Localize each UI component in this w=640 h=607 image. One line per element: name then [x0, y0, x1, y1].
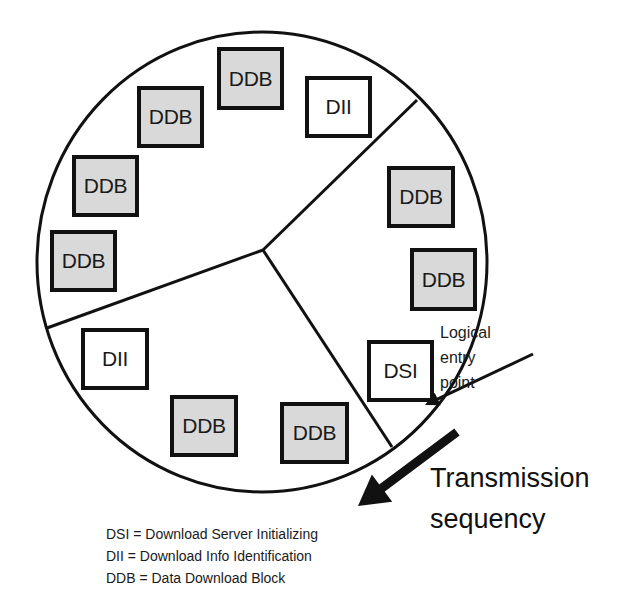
block-label: DSI — [383, 359, 417, 383]
block-ddb: DDB — [280, 402, 349, 464]
legend: DSI = Download Server Initializing DII =… — [106, 523, 318, 589]
block-ddb: DDB — [387, 166, 455, 228]
block-label: DDB — [293, 421, 336, 445]
block-dii: DII — [305, 76, 372, 138]
legend-item-ddb: DDB = Data Download Block — [106, 567, 318, 589]
legend-item-dsi: DSI = Download Server Initializing — [106, 523, 318, 545]
block-ddb: DDB — [50, 230, 117, 292]
block-label: DDB — [229, 67, 272, 91]
block-ddb: DDB — [72, 155, 139, 217]
transmission-sequence-label: Transmission sequency — [430, 458, 590, 540]
entry-label-line-2: entry — [440, 345, 491, 370]
block-label: DDB — [84, 174, 127, 198]
block-label: DII — [326, 95, 352, 119]
block-label: DDB — [422, 268, 465, 292]
block-label: DII — [102, 347, 128, 371]
block-label: DDB — [149, 105, 192, 129]
block-label: DDB — [182, 414, 225, 438]
block-label: DDB — [399, 185, 442, 209]
block-dii: DII — [81, 328, 149, 390]
entry-label-line-1: Logical — [440, 320, 491, 345]
block-dsi: DSI — [367, 340, 434, 402]
legend-item-dii: DII = Download Info Identification — [106, 545, 318, 567]
block-ddb: DDB — [410, 248, 477, 311]
transmission-label-line-2: sequency — [430, 499, 590, 540]
block-ddb: DDB — [137, 86, 204, 148]
block-ddb: DDB — [170, 395, 238, 457]
block-label: DDB — [62, 249, 105, 273]
transmission-label-line-1: Transmission — [430, 458, 590, 499]
entry-label-line-3: point — [440, 370, 491, 395]
block-ddb: DDB — [217, 47, 284, 110]
logical-entry-point-label: Logical entry point — [440, 320, 491, 395]
